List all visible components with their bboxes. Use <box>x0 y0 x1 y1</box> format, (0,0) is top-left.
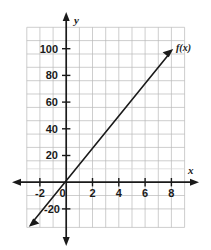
y-tick-label-20: 20 <box>46 149 58 161</box>
y-axis-label: y <box>72 14 79 26</box>
coordinate-graph: 100 80 60 40 20 -20 -2 0 2 4 6 8 y x f(x… <box>0 0 211 250</box>
x-tick-label-2: 2 <box>89 187 95 199</box>
y-tick-label-40: 40 <box>46 123 58 135</box>
x-tick-label-neg2: -2 <box>35 187 45 199</box>
x-tick-label-6: 6 <box>142 187 148 199</box>
function-label: f(x) <box>176 42 191 54</box>
x-tick-label-8: 8 <box>168 187 174 199</box>
y-tick-label-80: 80 <box>46 69 58 81</box>
graph-svg: 100 80 60 40 20 -20 -2 0 2 4 6 8 y x f(x… <box>0 0 211 250</box>
x-tick-label-4: 4 <box>116 187 123 199</box>
y-tick-label-100: 100 <box>40 43 58 55</box>
y-tick-label-60: 60 <box>46 96 58 108</box>
x-axis-label: x <box>187 164 194 176</box>
